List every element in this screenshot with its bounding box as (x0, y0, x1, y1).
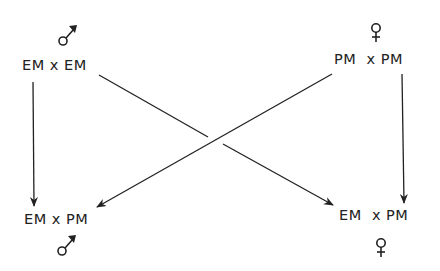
node-bottom-right: EM x PM (339, 208, 408, 223)
female-symbol-icon (372, 24, 380, 42)
male-symbol-icon (59, 25, 77, 45)
arrow-top-left-to-bottom-left (33, 82, 34, 206)
arrow-top-left-to-bottom-right (223, 144, 333, 205)
node-top-right: PM x PM (334, 52, 403, 67)
female-symbol-icon (377, 239, 385, 257)
node-bottom-left: EM x PM (24, 212, 88, 227)
male-symbol-icon (58, 235, 76, 255)
cross-diagram (0, 0, 440, 271)
node-top-left: EM x EM (22, 58, 87, 73)
arrow-top-right-to-bottom-right (402, 74, 404, 203)
arrow-top-left-to-bottom-right-seg1 (99, 75, 208, 137)
